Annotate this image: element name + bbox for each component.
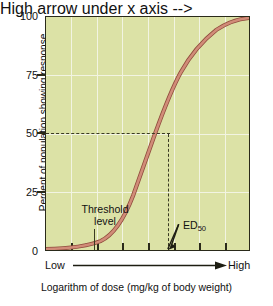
y-tick-label-100: 100 — [10, 11, 38, 22]
y-tick-label-75: 75 — [10, 70, 38, 81]
ed50-subscript: 50 — [198, 224, 206, 233]
y-tick-label-group: 100 75 50 25 0 — [6, 0, 38, 306]
y-tick-mark-75 — [37, 74, 45, 76]
x-axis-title: Logarithm of dose (mg/kg of body weight) — [0, 282, 273, 293]
plot-area: Threshold level ED50 — [45, 16, 250, 251]
y-tick-label-0: 0 — [10, 246, 38, 257]
ed50-leader-arrow-icon — [46, 17, 249, 250]
ed50-label: ED — [183, 219, 198, 231]
x-axis-high-label: High — [228, 259, 250, 271]
y-tick-mark-50 — [37, 132, 45, 134]
y-tick-mark-25 — [37, 191, 45, 193]
dose-response-chart-figure: Percent of population showing response 1… — [0, 0, 273, 306]
y-tick-label-50: 50 — [10, 128, 38, 139]
x-axis-direction-indicator: Low High — [45, 258, 260, 274]
ed50-annotation: ED50 — [183, 220, 206, 234]
y-tick-label-25: 25 — [10, 187, 38, 198]
